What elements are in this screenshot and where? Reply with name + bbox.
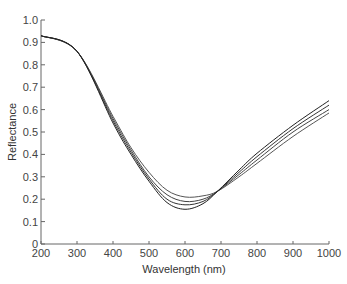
series-line-1 (41, 36, 329, 198)
data-lines (41, 36, 329, 210)
x-tick-label: 900 (284, 247, 302, 259)
y-tick-label: 0 (32, 238, 38, 250)
y-axis-title: Reflectance (6, 103, 18, 161)
y-tick-label: 0.7 (23, 81, 38, 93)
y-tick-label: 0.2 (23, 193, 38, 205)
y-tick-label: 0.6 (23, 104, 38, 116)
x-tick-label: 400 (104, 247, 122, 259)
y-tick-label: 0.8 (23, 59, 38, 71)
y-tick-label: 0.1 (23, 216, 38, 228)
x-tick-label: 500 (140, 247, 158, 259)
x-tick-label: 600 (176, 247, 194, 259)
x-tick-label: 700 (212, 247, 230, 259)
x-axis-title: Wavelength (nm) (142, 263, 225, 275)
x-tick-label: 800 (248, 247, 266, 259)
y-tick-label: 0.5 (23, 126, 38, 138)
y-tick-label: 0.4 (23, 148, 38, 160)
y-tick-label: 0.9 (23, 36, 38, 48)
reflectance-chart: 200300400500600700800900100000.10.20.30.… (0, 0, 347, 284)
x-tick-label: 1000 (317, 247, 341, 259)
series-line-2 (41, 36, 329, 202)
series-line-4 (41, 36, 329, 210)
y-tick-label: 1.0 (23, 14, 38, 26)
x-tick-label: 300 (68, 247, 86, 259)
y-tick-label: 0.3 (23, 171, 38, 183)
